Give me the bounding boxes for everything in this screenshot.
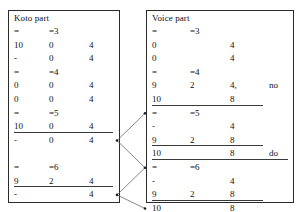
- koto-row-underline: [14, 186, 113, 187]
- voice-cell: =3: [190, 25, 200, 39]
- voice-part-rows: ==30404==4924,no108==5-4928108do==6-4928…: [147, 25, 293, 201]
- koto-cell: 4: [89, 188, 94, 202]
- voice-cell: =5: [190, 107, 200, 121]
- connector-endpoint: [144, 207, 147, 210]
- voice-cell: =: [152, 107, 157, 121]
- voice-cell: -: [152, 175, 155, 189]
- voice-row-underline: [152, 105, 263, 106]
- voice-cell: 9: [152, 79, 157, 93]
- voice-row: ==6: [147, 161, 293, 175]
- koto-cell: 0: [49, 134, 54, 148]
- voice-row: 04: [147, 52, 293, 66]
- koto-cell: =: [14, 66, 19, 80]
- voice-row: 04: [147, 39, 293, 53]
- koto-cell: =4: [49, 66, 59, 80]
- koto-row: 1004: [9, 39, 119, 53]
- koto-cell: 0: [49, 52, 54, 66]
- connector-line: [117, 113, 145, 140]
- voice-row: -4: [147, 120, 293, 134]
- koto-cell: 4: [89, 134, 94, 148]
- koto-row: ==4: [9, 66, 119, 80]
- connector-line: [117, 168, 145, 195]
- voice-cell: =: [152, 25, 157, 39]
- koto-cell: 0: [49, 39, 54, 53]
- koto-cell: =6: [49, 161, 59, 175]
- koto-row: -04: [9, 52, 119, 66]
- voice-row: 108do: [147, 147, 293, 161]
- voice-cell: 0: [152, 52, 157, 66]
- voice-row: 108: [147, 202, 293, 212]
- koto-row: 1004: [9, 120, 119, 134]
- voice-cell: =: [152, 161, 157, 175]
- voice-cell: =6: [190, 161, 200, 175]
- koto-cell: =: [14, 25, 19, 39]
- koto-row: ==5: [9, 107, 119, 121]
- voice-row: 924,no: [147, 79, 293, 93]
- voice-row: 928: [147, 188, 293, 202]
- voice-row: ==5: [147, 107, 293, 121]
- voice-row: ==3: [147, 25, 293, 39]
- koto-cell: -: [14, 52, 17, 66]
- koto-cell: 10: [14, 39, 23, 53]
- voice-cell: 10: [152, 202, 161, 212]
- koto-row: ==3: [9, 25, 119, 39]
- voice-row: 108: [147, 93, 293, 107]
- koto-cell: =: [14, 107, 19, 121]
- koto-part-title: Koto part: [14, 13, 49, 23]
- koto-row: -04: [9, 134, 119, 148]
- voice-cell: =4: [190, 66, 200, 80]
- voice-cell: 4: [230, 39, 235, 53]
- koto-row: 924: [9, 175, 119, 189]
- voice-cell: -: [152, 120, 155, 134]
- voice-part-title: Voice part: [152, 13, 190, 23]
- koto-row: ==6: [9, 161, 119, 175]
- koto-row: -4: [9, 188, 119, 202]
- koto-cell: =5: [49, 107, 59, 121]
- voice-cell: 4,: [230, 79, 237, 93]
- connector-line: [117, 141, 145, 168]
- koto-cell: 0: [49, 93, 54, 107]
- koto-cell: 0: [14, 79, 19, 93]
- koto-cell: 0: [14, 93, 19, 107]
- voice-cell: 4: [230, 120, 235, 134]
- koto-cell: -: [14, 134, 17, 148]
- koto-row: [9, 147, 119, 161]
- koto-cell: 4: [89, 93, 94, 107]
- koto-part-rows: ==31004-04==4004004==51004-04==6924-4==7: [9, 25, 119, 201]
- voice-row-underline: [152, 145, 263, 146]
- voice-part-panel: Voice part ==30404==4924,no108==5-492810…: [146, 10, 294, 203]
- voice-cell: 8: [230, 202, 235, 212]
- voice-row: -4: [147, 175, 293, 189]
- koto-part-panel: Koto part ==31004-04==4004004==51004-04=…: [8, 10, 120, 203]
- koto-row: 004: [9, 93, 119, 107]
- voice-row: 928: [147, 134, 293, 148]
- koto-row-underline: [14, 132, 113, 133]
- koto-cell: 4: [89, 79, 94, 93]
- koto-cell: 4: [89, 52, 94, 66]
- voice-cell: 0: [152, 39, 157, 53]
- voice-row: ==4: [147, 66, 293, 80]
- voice-cell: 4: [230, 175, 235, 189]
- koto-cell: -: [14, 188, 17, 202]
- voice-row-underline: [152, 159, 288, 160]
- voice-row-underline: [152, 200, 263, 201]
- koto-cell: =3: [49, 25, 59, 39]
- voice-cell: 2: [190, 79, 195, 93]
- koto-cell: 0: [49, 79, 54, 93]
- figure-root: Koto part ==31004-04==4004004==51004-04=…: [0, 0, 302, 212]
- voice-cell: no: [269, 79, 278, 93]
- koto-cell: 4: [89, 39, 94, 53]
- connector-line: [117, 195, 145, 209]
- koto-row: [9, 202, 119, 212]
- voice-cell: =: [152, 66, 157, 80]
- koto-cell: =: [14, 161, 19, 175]
- voice-cell: 4: [230, 52, 235, 66]
- koto-row: 004: [9, 79, 119, 93]
